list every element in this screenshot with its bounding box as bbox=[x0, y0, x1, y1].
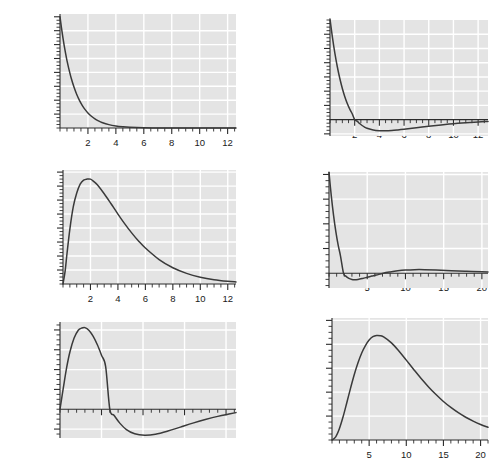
plot-area-2p bbox=[63, 170, 236, 284]
plot-area-3p bbox=[60, 322, 236, 438]
curve-3p bbox=[60, 328, 236, 436]
plot-svg-3s bbox=[329, 172, 492, 318]
curve-2p bbox=[63, 179, 236, 284]
plot-svg-1s bbox=[60, 14, 266, 158]
plot-area-3d bbox=[332, 318, 488, 440]
plot-area-2s bbox=[330, 20, 488, 136]
curve-2s bbox=[330, 19, 488, 131]
plot-area-1s bbox=[60, 14, 236, 128]
plot-svg-2p bbox=[63, 170, 266, 314]
plot-svg-2s bbox=[330, 20, 492, 166]
plot-area-3s bbox=[329, 172, 488, 288]
radial-wavefunction-figure: 0.250.50.7511.251.51.752246810121s−0.10.… bbox=[0, 0, 492, 467]
curve-3s bbox=[329, 172, 488, 279]
curve-3d bbox=[332, 335, 488, 440]
plot-svg-3d bbox=[332, 318, 492, 467]
plot-svg-3p bbox=[60, 322, 266, 467]
